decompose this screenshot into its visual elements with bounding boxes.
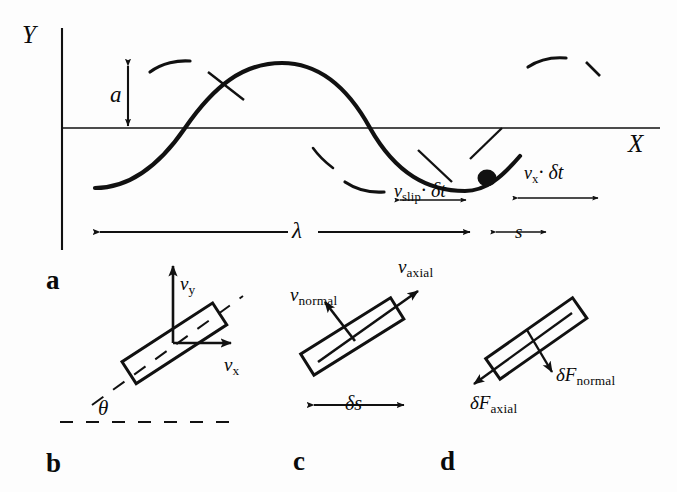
vy-label: vy xyxy=(180,274,195,297)
v-axial-label: vaxial xyxy=(398,257,433,280)
vy-sub: y xyxy=(188,282,195,297)
panel-letter-c: c xyxy=(293,448,305,475)
f-axial-label: δFaxial xyxy=(470,393,517,416)
v-normal-sub: normal xyxy=(298,293,337,308)
panel-letter-a: a xyxy=(46,267,60,294)
f-axial-base: δF xyxy=(470,392,490,413)
theta-label: θ xyxy=(98,398,108,419)
slip-symbol-base: v xyxy=(394,181,402,201)
slip-symbol-tail: · δt xyxy=(421,179,446,201)
wavelength-label: λ xyxy=(292,219,302,242)
axis-label-x: X xyxy=(628,131,643,156)
forward-displacement-label: vx· δt xyxy=(524,162,563,186)
f-normal-sub: normal xyxy=(576,373,615,388)
f-normal-label: δFnormal xyxy=(556,365,615,388)
v-normal-label: vnormal xyxy=(290,285,337,308)
vx-label: vx xyxy=(224,355,239,378)
slip-displacement-label: vslip· δt xyxy=(394,180,446,204)
axis-label-y: Y xyxy=(22,22,36,47)
segment-length-label: s xyxy=(515,222,522,241)
panel-letter-b: b xyxy=(46,450,61,477)
vx-dt-symbol-tail: · δt xyxy=(539,161,564,183)
panel-b-graphic xyxy=(60,266,243,422)
v-axial-sub: axial xyxy=(406,265,433,280)
delta-s-label: δs xyxy=(345,393,362,413)
f-axial-sub: axial xyxy=(490,401,517,416)
head-marker-dot xyxy=(478,170,497,187)
vx-sub: x xyxy=(232,363,239,378)
vx-dt-symbol-base: v xyxy=(524,163,532,183)
panel-a-axes xyxy=(62,28,660,250)
figure-root: Y X a λ s vslip· δt vx· δt a vy vx θ b v… xyxy=(0,0,677,492)
body-waveform xyxy=(95,63,520,191)
amplitude-label: a xyxy=(110,83,122,106)
panel-letter-d: d xyxy=(440,448,455,475)
f-normal-base: δF xyxy=(556,364,576,385)
slip-symbol-sub: slip xyxy=(402,190,421,204)
